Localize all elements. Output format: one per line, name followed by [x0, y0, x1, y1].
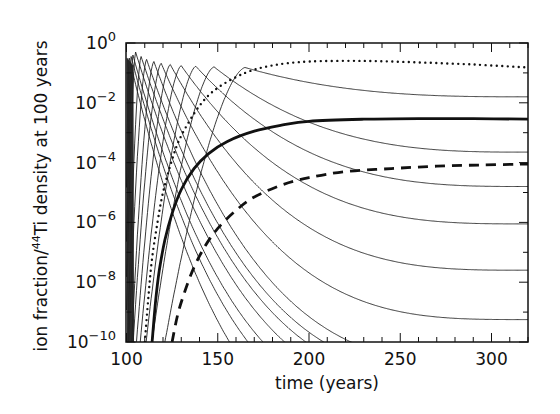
- thin-curve: [150, 67, 528, 355]
- y-tick-label: 100: [86, 29, 116, 53]
- y-tick-label: 10−8: [75, 268, 116, 292]
- x-tick-label: 250: [384, 349, 416, 369]
- y-tick-label: 10−6: [75, 208, 116, 232]
- x-tick-label: 150: [202, 349, 234, 369]
- thin-curve: [127, 57, 330, 357]
- y-axis-title: ion fraction/44Ti density at 100 years: [30, 40, 51, 351]
- thin-curve: [163, 68, 528, 353]
- x-tick-label: 100: [110, 349, 142, 369]
- dotted-curve: [145, 61, 528, 342]
- plot-curves: [127, 52, 529, 357]
- y-tick-label: 10−4: [75, 149, 116, 173]
- chart: 100150200250300 10010−210−410−610−810−10…: [0, 0, 560, 414]
- thin-curve: [145, 66, 528, 354]
- dashed-curve: [172, 164, 528, 342]
- y-tick-label: 10−10: [67, 328, 116, 352]
- x-tick-label: 200: [293, 349, 325, 369]
- y-tick-label: 10−2: [75, 89, 116, 113]
- x-tick-label: 300: [475, 349, 507, 369]
- x-axis: 100150200250300: [110, 43, 528, 369]
- thick-solid-curve: [152, 119, 528, 342]
- early-curve: [133, 66, 134, 342]
- x-axis-title: time (years): [275, 373, 379, 393]
